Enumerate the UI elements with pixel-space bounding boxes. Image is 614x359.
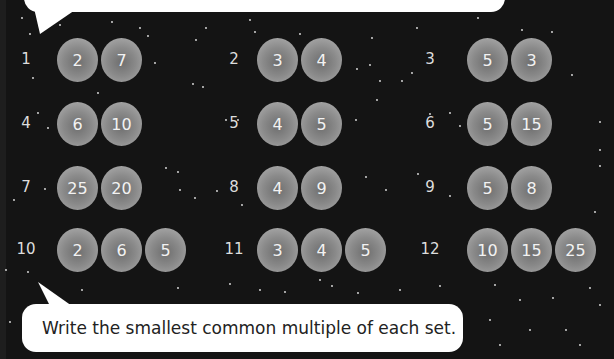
number-ball: 5 <box>467 166 508 210</box>
number-ball: 10 <box>467 228 508 272</box>
number-ball: 15 <box>511 102 552 146</box>
number-ball: 7 <box>101 38 142 82</box>
top-bubble-tail <box>30 8 80 36</box>
problem-number: 1 <box>14 50 38 68</box>
top-speech-bubble <box>24 0 505 12</box>
number-ball: 25 <box>555 228 596 272</box>
number-ball: 5 <box>145 228 186 272</box>
number-ball: 20 <box>101 166 142 210</box>
number-ball: 2 <box>57 38 98 82</box>
number-ball: 4 <box>301 38 342 82</box>
number-ball: 5 <box>467 38 508 82</box>
number-ball: 5 <box>467 102 508 146</box>
number-ball: 6 <box>57 102 98 146</box>
instruction-bubble: Write the smallest common multiple of ea… <box>22 304 463 352</box>
problem-number: 8 <box>222 178 246 196</box>
number-ball: 3 <box>511 38 552 82</box>
number-ball: 10 <box>101 102 142 146</box>
number-ball: 2 <box>57 228 98 272</box>
number-ball: 3 <box>257 38 298 82</box>
number-ball: 4 <box>301 228 342 272</box>
number-ball: 3 <box>257 228 298 272</box>
problem-number: 11 <box>222 240 246 258</box>
problem-number: 6 <box>418 114 442 132</box>
number-ball: 5 <box>345 228 386 272</box>
number-ball: 9 <box>301 166 342 210</box>
problem-number: 10 <box>14 240 38 258</box>
number-ball: 4 <box>257 166 298 210</box>
problem-number: 2 <box>222 50 246 68</box>
problem-number: 12 <box>418 240 442 258</box>
problem-number: 7 <box>14 178 38 196</box>
problem-number: 9 <box>418 178 442 196</box>
problem-number: 5 <box>222 114 246 132</box>
problem-number: 4 <box>14 114 38 132</box>
instruction-text: Write the smallest common multiple of ea… <box>42 318 456 338</box>
number-ball: 25 <box>57 166 98 210</box>
number-ball: 8 <box>511 166 552 210</box>
problem-number: 3 <box>418 50 442 68</box>
number-ball: 4 <box>257 102 298 146</box>
number-ball: 6 <box>101 228 142 272</box>
number-ball: 15 <box>511 228 552 272</box>
number-ball: 5 <box>301 102 342 146</box>
